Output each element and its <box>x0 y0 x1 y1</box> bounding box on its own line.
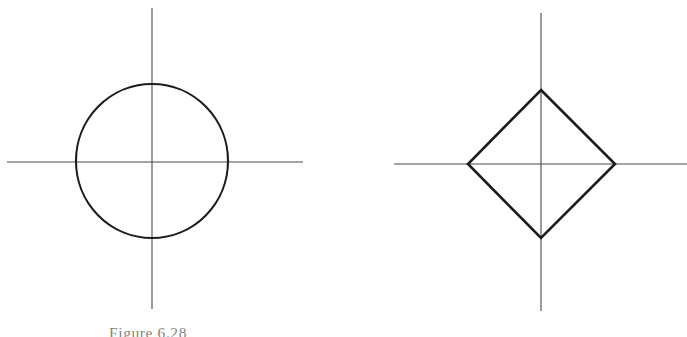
figure-page: Figure 6.28 Figure 6.29 <box>0 0 687 337</box>
figure-caption-6-28: Figure 6.28 <box>109 325 187 337</box>
figure-panel-circle: Figure 6.28 <box>0 0 343 337</box>
figure-caption-6-28-text: Figure 6.28 <box>109 325 187 337</box>
figure-panel-diamond: Figure 6.29 <box>343 0 687 337</box>
diamond-figure-diagram <box>343 0 687 337</box>
circle-figure-diagram <box>0 0 343 337</box>
